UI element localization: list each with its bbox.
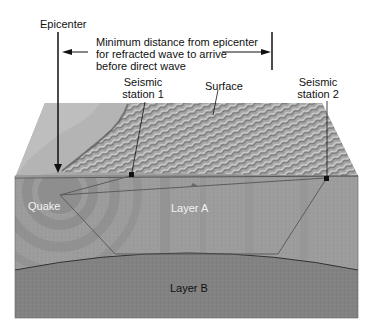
station-1-label-1: Seismic xyxy=(118,76,168,88)
min-distance-label-3: before direct wave xyxy=(96,60,186,72)
min-distance-label-2: for refracted wave to arrive xyxy=(96,48,227,60)
layer-a-label: Layer A xyxy=(171,202,208,214)
min-distance-label-1: Minimum distance from epicenter xyxy=(96,36,258,48)
layer-b-label: Layer B xyxy=(170,282,208,294)
station-2-label-1: Seismic xyxy=(293,76,343,88)
station-1-label-2: station 1 xyxy=(118,88,168,100)
station-2-label-2: station 2 xyxy=(293,88,343,100)
seismic-diagram: Epicenter Minimum distance from epicente… xyxy=(0,0,366,333)
surface-label: Surface xyxy=(205,80,243,92)
surface-terrain xyxy=(15,103,358,178)
epicenter-label: Epicenter xyxy=(40,18,86,30)
quake-label: Quake xyxy=(28,200,60,212)
